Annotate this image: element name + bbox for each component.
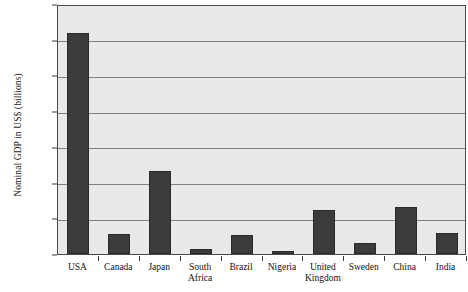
x-tick-mark: [98, 256, 99, 261]
x-tick-label: India: [414, 262, 468, 273]
bar: [67, 33, 89, 254]
bar: [436, 233, 458, 254]
bar: [149, 171, 171, 254]
x-tick-mark: [425, 256, 426, 261]
bar: [231, 235, 253, 254]
gridline: [58, 77, 465, 78]
gdp-bar-chart: Nominal GDP in US$ (billions) 02,0004,00…: [0, 0, 468, 292]
x-tick-mark: [139, 256, 140, 261]
x-tick-label-line: Kingdom: [291, 273, 355, 284]
gridline: [58, 148, 465, 149]
y-axis-title: Nominal GDP in US$ (billions): [13, 25, 23, 245]
x-tick-label-line: India: [414, 262, 468, 273]
x-tick-mark: [262, 256, 263, 261]
bar: [108, 234, 130, 254]
x-tick-mark: [384, 256, 385, 261]
x-tick-label-line: Africa: [168, 273, 232, 284]
x-tick-mark: [221, 256, 222, 261]
x-tick-mark: [302, 256, 303, 261]
plot-area: [57, 5, 466, 255]
x-tick-mark: [466, 256, 467, 261]
bar: [272, 251, 294, 254]
x-tick-mark: [343, 256, 344, 261]
gridline: [58, 113, 465, 114]
x-tick-mark: [180, 256, 181, 261]
gridline: [58, 184, 465, 185]
bar: [313, 210, 335, 254]
bar: [395, 207, 417, 254]
bar: [354, 243, 376, 254]
gridline: [58, 41, 465, 42]
bar: [190, 249, 212, 254]
